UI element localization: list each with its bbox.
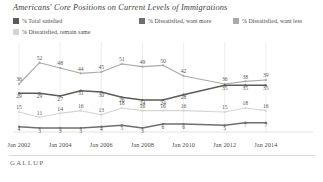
data-label: 6: [162, 124, 165, 130]
data-label: 30: [98, 92, 104, 98]
data-label: 42: [181, 68, 187, 74]
data-label: 16: [181, 103, 187, 109]
data-point: [182, 110, 184, 112]
line-chart-plot: 1511141613181616161518163652484445514950…: [13, 42, 313, 138]
data-label: 35: [242, 85, 248, 91]
data-label: 4: [100, 126, 103, 132]
data-label: 50: [160, 58, 166, 64]
data-point: [100, 71, 102, 73]
legend-item-want-more[interactable]: % Dissatisfied, want more: [139, 15, 211, 26]
data-label: 49: [140, 59, 146, 65]
data-point: [141, 110, 143, 112]
page-title: Americans' Core Positions on Current Lev…: [13, 3, 227, 12]
data-label: 3: [38, 128, 41, 134]
data-label: 18: [242, 100, 248, 106]
data-point: [80, 72, 82, 74]
data-point: [59, 112, 61, 114]
data-label: 7: [244, 122, 247, 128]
data-label: 36: [222, 76, 228, 82]
legend-swatch-icon: [13, 18, 19, 24]
data-point: [18, 83, 20, 85]
data-point: [265, 79, 267, 81]
data-label: 3: [59, 128, 62, 134]
data-label: 39: [263, 72, 269, 78]
legend-row-1: % Total satisfied % Dissatisfied, want m…: [13, 15, 313, 26]
data-label: 31: [78, 90, 84, 96]
data-label: 24: [140, 100, 146, 106]
data-label: 29: [37, 93, 43, 99]
data-label: 45: [98, 64, 104, 70]
data-label: 4: [18, 126, 21, 132]
data-label: 28: [181, 94, 187, 100]
x-axis-tick: Jan 2006: [90, 141, 113, 148]
legend-label: % Dissatisfied, want more: [148, 18, 211, 24]
data-point: [121, 107, 123, 109]
legend-label: % Dissatisfied, want less: [242, 18, 302, 24]
data-point: [162, 110, 164, 112]
data-label: 7: [264, 122, 267, 128]
legend-swatch-icon: [13, 29, 19, 35]
gallup-logo: GALLUP: [10, 159, 44, 167]
x-axis-tick: Jan 2002: [8, 141, 31, 148]
data-label: 11: [37, 110, 43, 116]
data-point: [121, 63, 123, 65]
data-label: 35: [222, 85, 228, 91]
data-point: [265, 110, 267, 112]
legend-item-remain-same[interactable]: % Dissatisfied, remain same: [13, 26, 90, 37]
data-label: 36: [16, 76, 22, 82]
data-point: [80, 110, 82, 112]
data-point: [224, 111, 226, 113]
data-label: 29: [16, 93, 22, 99]
data-label: 16: [263, 103, 269, 109]
data-point: [141, 66, 143, 68]
data-label: 15: [16, 104, 22, 110]
data-label: 14: [57, 106, 63, 112]
data-point: [18, 111, 20, 113]
data-label: 13: [98, 107, 104, 113]
data-label: 44: [78, 66, 84, 72]
data-label: 16: [78, 103, 84, 109]
data-label: 48: [57, 60, 63, 66]
data-point: [100, 114, 102, 116]
data-label: 38: [242, 74, 248, 80]
legend-label: % Total satisfied: [22, 18, 62, 24]
data-label: 3: [79, 128, 82, 134]
data-label: 3: [141, 128, 144, 134]
data-label: 35: [263, 85, 269, 91]
data-point: [182, 75, 184, 77]
chart-svg: 1511141613181616161518163652484445514950…: [13, 42, 313, 138]
data-label: 5: [223, 125, 226, 131]
x-axis-tick: Jan 2012: [213, 141, 236, 148]
data-label: 5: [120, 125, 123, 131]
legend-label: % Dissatisfied, remain same: [22, 29, 90, 35]
data-label: 24: [160, 100, 166, 106]
legend-item-total-satisfied[interactable]: % Total satisfied: [13, 15, 62, 26]
data-label: 26: [119, 97, 125, 103]
x-axis-tick: Jan 2004: [49, 141, 72, 148]
data-label: 15: [222, 104, 228, 110]
x-axis-tick: Jan 2010: [172, 141, 195, 148]
x-axis-tick: Jan 2014: [254, 141, 277, 148]
x-axis-tick-labels: Jan 2002Jan 2004Jan 2006Jan 2008Jan 2010…: [13, 141, 313, 153]
legend-row-2: % Dissatisfied, remain same: [13, 26, 313, 37]
data-point: [162, 64, 164, 66]
x-axis-tick: Jan 2008: [131, 141, 154, 148]
footer-divider: [9, 155, 315, 156]
data-point: [38, 116, 40, 118]
data-point: [38, 62, 40, 64]
legend-swatch-icon: [233, 18, 239, 24]
legend-item-want-less[interactable]: % Dissatisfied, want less: [233, 15, 302, 26]
data-point: [59, 67, 61, 69]
data-label: 52: [37, 55, 43, 61]
chart-page: Americans' Core Positions on Current Lev…: [0, 0, 323, 182]
data-point: [244, 107, 246, 109]
data-point: [244, 80, 246, 82]
data-label: 27: [57, 96, 63, 102]
legend-swatch-icon: [139, 18, 145, 24]
data-label: 6: [182, 124, 185, 130]
data-label: 51: [119, 56, 125, 62]
